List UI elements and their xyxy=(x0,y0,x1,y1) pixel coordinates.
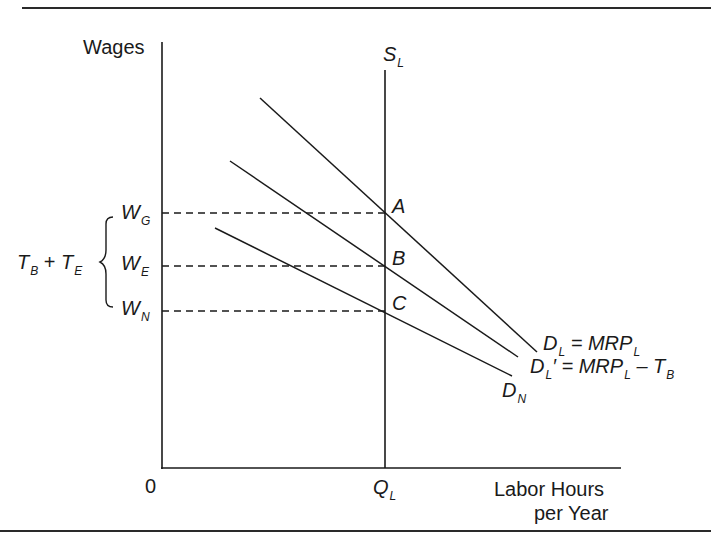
quantity-label: QL xyxy=(373,477,396,497)
point-b-label: B xyxy=(392,248,405,268)
point-c-label: C xyxy=(392,293,406,313)
demand-curve-dl-prime xyxy=(230,161,518,357)
demand-curve-dn xyxy=(215,228,512,376)
x-axis-label-line2: per Year xyxy=(534,503,609,523)
wage-label-wg: WG xyxy=(121,202,150,222)
wage-label-wn: WN xyxy=(121,298,150,318)
wage-label-we: WE xyxy=(121,253,149,273)
tax-brace xyxy=(100,217,113,307)
demand-label-dn: DN xyxy=(502,380,526,400)
x-axis-label-line1: Labor Hours xyxy=(494,479,604,499)
demand-label-dl: DL = MRPL xyxy=(543,333,640,353)
labor-market-diagram xyxy=(0,0,711,546)
point-a-label: A xyxy=(392,196,405,216)
tax-bracket-label: TB + TE xyxy=(17,252,82,272)
origin-label: 0 xyxy=(145,476,156,496)
y-axis-label: Wages xyxy=(83,37,145,57)
supply-label: SL xyxy=(383,44,404,64)
demand-label-dl-prime: DL′ = MRPL – TB xyxy=(530,356,674,376)
